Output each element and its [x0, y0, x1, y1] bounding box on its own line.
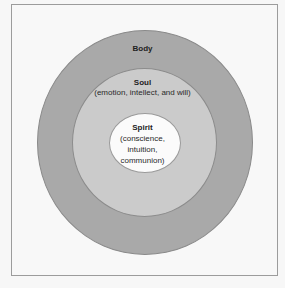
soul-description: (emotion, intellect, and will) [0, 87, 285, 98]
spirit-description-line-2: intuition, [0, 144, 285, 155]
spirit-description-line-3: communion) [0, 155, 285, 166]
spirit-description-line-1: (conscience, [0, 133, 285, 144]
body-label: Body [0, 43, 285, 54]
spirit-label: Spirit [0, 122, 285, 133]
